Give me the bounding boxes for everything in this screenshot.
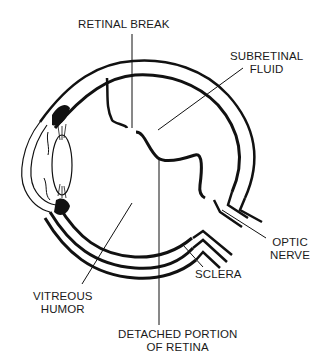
label-sclera: SCLERA	[195, 268, 242, 281]
detached-retina-left	[107, 78, 127, 128]
detached-retina-right	[136, 132, 205, 198]
cornea-inner	[31, 125, 58, 205]
ciliary-body-bottom	[54, 198, 70, 214]
choroid-inner-top	[55, 75, 240, 192]
iris-bottom	[44, 178, 50, 200]
label-optic-nerve: OPTIC NERVE	[270, 236, 310, 262]
eye-diagram: RETINAL BREAK SUBRETINAL FLUID OPTIC NER…	[0, 0, 324, 362]
choroid-bottom	[58, 205, 192, 257]
cornea-outer	[22, 122, 50, 212]
ciliary-body-top	[52, 105, 70, 126]
optic-nerve-upper-2	[240, 198, 262, 222]
label-vitreous-humor: VITREOUS HUMOR	[33, 290, 93, 316]
sclera-bottom-2	[45, 218, 196, 278]
optic-sheath-lower-3	[196, 252, 220, 268]
zonule-fibers	[58, 124, 66, 198]
sclera-outer-top	[40, 61, 254, 198]
label-retinal-break: RETINAL BREAK	[78, 18, 170, 31]
label-detached-portion: DETACHED PORTION OF RETINA	[118, 328, 237, 354]
iris-top	[47, 132, 48, 155]
label-subretinal-fluid: SUBRETINAL FLUID	[230, 50, 303, 76]
